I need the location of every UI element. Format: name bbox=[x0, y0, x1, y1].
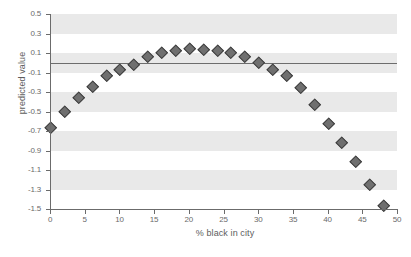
x-axis-title: % black in city bbox=[140, 228, 310, 238]
y-tick-label: 0.3 bbox=[17, 30, 41, 38]
x-tick-mark bbox=[154, 210, 155, 214]
x-tick-mark bbox=[328, 210, 329, 214]
x-tick-label: 30 bbox=[246, 216, 270, 224]
y-tick-label: -0.5 bbox=[17, 108, 41, 116]
chart-figure: predicted value % black in city 0.50.30.… bbox=[0, 0, 411, 257]
x-tick-label: 15 bbox=[142, 216, 166, 224]
x-tick-label: 50 bbox=[385, 216, 409, 224]
x-tick-label: 5 bbox=[73, 216, 97, 224]
y-tick-label: 0.1 bbox=[17, 49, 41, 57]
x-tick-label: 45 bbox=[350, 216, 374, 224]
data-point bbox=[377, 199, 390, 212]
x-tick-mark bbox=[258, 210, 259, 214]
y-tick-label: -1.5 bbox=[17, 205, 41, 213]
data-point bbox=[322, 118, 335, 131]
x-tick-mark bbox=[50, 210, 51, 214]
background-band bbox=[50, 14, 397, 34]
x-tick-label: 10 bbox=[107, 216, 131, 224]
zero-reference-line bbox=[50, 63, 397, 64]
x-tick-label: 25 bbox=[212, 216, 236, 224]
x-tick-mark bbox=[224, 210, 225, 214]
x-tick-mark bbox=[293, 210, 294, 214]
background-band bbox=[50, 92, 397, 112]
y-tick-mark bbox=[46, 190, 50, 191]
y-tick-mark bbox=[46, 112, 50, 113]
x-tick-mark bbox=[189, 210, 190, 214]
y-tick-label: -1.3 bbox=[17, 186, 41, 194]
y-tick-label: -1.1 bbox=[17, 166, 41, 174]
y-tick-mark bbox=[46, 170, 50, 171]
y-tick-label: 0.5 bbox=[17, 10, 41, 18]
y-tick-label: -0.1 bbox=[17, 69, 41, 77]
y-tick-label: -0.9 bbox=[17, 147, 41, 155]
x-tick-label: 20 bbox=[177, 216, 201, 224]
y-axis-line bbox=[50, 14, 51, 210]
y-tick-mark bbox=[46, 131, 50, 132]
x-tick-mark bbox=[85, 210, 86, 214]
x-tick-mark bbox=[119, 210, 120, 214]
y-tick-label: -0.7 bbox=[17, 127, 41, 135]
y-tick-mark bbox=[46, 53, 50, 54]
x-tick-label: 35 bbox=[281, 216, 305, 224]
data-point bbox=[350, 156, 363, 169]
plot-area bbox=[50, 14, 397, 209]
y-tick-mark bbox=[46, 14, 50, 15]
x-tick-label: 40 bbox=[316, 216, 340, 224]
y-tick-mark bbox=[46, 151, 50, 152]
y-tick-mark bbox=[46, 73, 50, 74]
y-tick-label: -0.3 bbox=[17, 88, 41, 96]
background-band bbox=[50, 170, 397, 190]
x-tick-mark bbox=[397, 210, 398, 214]
x-tick-label: 0 bbox=[38, 216, 62, 224]
y-tick-mark bbox=[46, 34, 50, 35]
x-tick-mark bbox=[362, 210, 363, 214]
y-tick-mark bbox=[46, 92, 50, 93]
